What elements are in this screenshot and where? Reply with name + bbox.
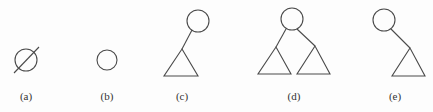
label-d: (d) xyxy=(288,90,301,102)
tree-edge xyxy=(182,30,192,49)
subtree-triangle xyxy=(297,46,330,74)
label-e: (e) xyxy=(389,90,401,102)
subtree-triangle xyxy=(164,49,198,76)
tree-edge xyxy=(391,29,410,48)
tree-node-circle xyxy=(97,50,117,70)
panel-a xyxy=(14,47,39,73)
tree-node-circle xyxy=(281,8,303,30)
null-slash-line xyxy=(14,47,39,73)
panel-c xyxy=(164,10,209,76)
tree-node-circle xyxy=(373,9,395,31)
label-a: (a) xyxy=(20,90,32,102)
label-c: (c) xyxy=(176,90,188,102)
panel-b xyxy=(97,50,117,70)
binary-tree-cases-diagram: (a) (b) (c) (d) (e) xyxy=(0,0,433,112)
subtree-triangle xyxy=(392,48,425,76)
panel-d xyxy=(258,8,330,74)
tree-edge xyxy=(276,29,286,47)
panel-e xyxy=(373,9,425,76)
tree-node-circle xyxy=(187,10,209,32)
tree-edge xyxy=(297,29,315,46)
subtree-triangle xyxy=(258,47,291,74)
diagram-drawing xyxy=(0,0,433,112)
label-b: (b) xyxy=(101,90,114,102)
